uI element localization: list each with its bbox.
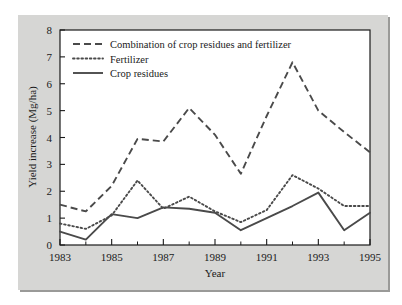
legend-label-0: Combination of crop residues and fertili…	[110, 39, 292, 50]
x-tick-label: 1989	[204, 251, 227, 263]
x-tick-label: 1987	[152, 251, 175, 263]
x-axis-title: Year	[205, 267, 226, 279]
y-tick-label: 8	[47, 24, 53, 36]
x-tick-label: 1985	[101, 251, 124, 263]
x-tick-label: 1995	[359, 251, 382, 263]
y-tick-label: 4	[47, 132, 53, 144]
legend-label-2: Crop residues	[110, 68, 168, 79]
x-tick-label: 1983	[49, 251, 72, 263]
figure-root: 012345678 1983198519871989199119931995 C…	[0, 0, 402, 305]
y-axis-title: Yield increase (Mg/ha)	[26, 86, 39, 188]
y-tick-label: 3	[47, 158, 53, 170]
y-tick-label: 1	[47, 212, 53, 224]
y-tick-label: 2	[47, 185, 53, 197]
x-axis-tick-labels: 1983198519871989199119931995	[49, 251, 382, 263]
chart-svg: 012345678 1983198519871989199119931995 C…	[0, 0, 402, 305]
y-tick-label: 5	[47, 105, 53, 117]
y-tick-label: 7	[47, 51, 53, 63]
y-tick-label: 0	[47, 239, 53, 251]
x-tick-label: 1993	[307, 251, 330, 263]
x-tick-label: 1991	[256, 251, 278, 263]
y-axis-tick-labels: 012345678	[47, 24, 53, 251]
legend-label-1: Fertilizer	[110, 54, 149, 65]
y-tick-label: 6	[47, 78, 53, 90]
